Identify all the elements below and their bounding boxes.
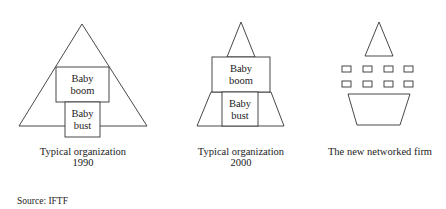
node-box <box>384 81 393 87</box>
baby-bust-label-1990-line2: bust <box>74 120 92 131</box>
baby-boom-label-2000-line1: Baby <box>230 63 253 74</box>
node-box <box>404 81 413 87</box>
node-box <box>342 81 351 87</box>
caption-1990: Typical organization 1990 <box>20 146 146 168</box>
node-box <box>363 66 372 72</box>
caption-networked-firm: The new networked firm <box>318 146 442 157</box>
figure-networked-firm <box>342 22 413 125</box>
baby-bust-label-2000-line2: bust <box>231 110 249 121</box>
caption-1990-line1: Typical organization <box>20 146 146 157</box>
caption-2000-line2: 2000 <box>178 157 304 168</box>
caption-2000: Typical organization 2000 <box>178 146 304 168</box>
baby-boom-label-1990-line2: boom <box>71 85 95 96</box>
caption-networked-line1: The new networked firm <box>318 146 442 157</box>
node-box <box>404 66 413 72</box>
top-triangle-networked <box>365 22 393 56</box>
node-box <box>363 81 372 87</box>
base-trapezoid-networked <box>348 94 410 125</box>
baby-boom-label-2000-line2: boom <box>229 75 253 86</box>
caption-2000-line1: Typical organization <box>178 146 304 157</box>
node-box <box>342 66 351 72</box>
node-box <box>384 66 393 72</box>
baby-bust-label-1990-line1: Baby <box>71 108 94 119</box>
diagram-canvas: Baby boom Baby bust Baby boom Baby bust <box>0 0 446 209</box>
source-note: Source: IFTF <box>17 196 68 206</box>
baby-bust-label-2000-line1: Baby <box>229 98 252 109</box>
baby-boom-label-1990-line1: Baby <box>71 73 94 84</box>
caption-1990-line2: 1990 <box>20 157 146 168</box>
top-triangle-2000 <box>227 22 255 57</box>
